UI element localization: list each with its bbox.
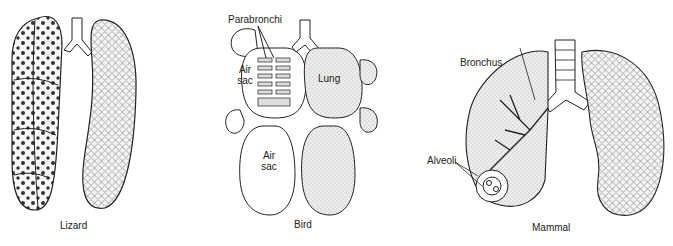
label-lung: Lung bbox=[318, 73, 340, 84]
lizard-lung bbox=[12, 17, 136, 210]
label-alveoli: Alveoli bbox=[427, 155, 456, 166]
air-sac-upper-line1: Air bbox=[234, 64, 256, 75]
bird-caption: Bird bbox=[294, 219, 312, 230]
mammal-caption: Mammal bbox=[532, 222, 570, 233]
label-air-sac-upper: Air sac bbox=[234, 64, 256, 86]
label-air-sac-lower: Air sac bbox=[258, 150, 280, 172]
lung-comparison-diagram bbox=[0, 0, 673, 246]
air-sac-lower-line1: Air bbox=[258, 150, 280, 161]
lizard-caption: Lizard bbox=[60, 220, 87, 231]
label-bronchus: Bronchus bbox=[460, 57, 502, 68]
label-parabronchi: Parabronchi bbox=[228, 14, 282, 25]
air-sac-upper-line2: sac bbox=[234, 75, 256, 86]
air-sac-lower-line2: sac bbox=[258, 161, 280, 172]
bird-lung bbox=[226, 20, 378, 215]
